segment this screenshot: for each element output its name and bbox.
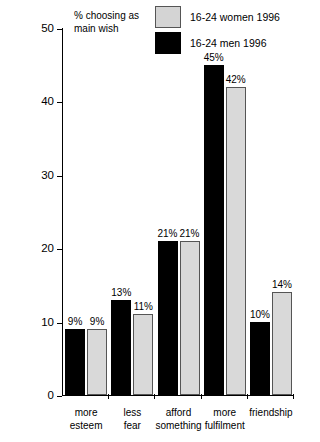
y-axis-tick-label: 10 <box>30 317 54 328</box>
legend-item-women: 16-24 women 1996 <box>155 4 294 30</box>
bar-women[interactable]: 11% <box>133 28 153 395</box>
x-axis-category-label: friendship <box>248 406 294 442</box>
y-axis-tick-label: 40 <box>30 96 54 107</box>
y-axis-tick <box>57 176 62 177</box>
bar-group: 21%21% <box>155 28 201 395</box>
bar-men[interactable]: 45% <box>204 28 224 395</box>
bar-men[interactable]: 21% <box>158 28 178 395</box>
bar-women[interactable]: 9% <box>87 28 107 395</box>
bar-rect[interactable] <box>250 322 270 395</box>
y-axis-tick-label: 30 <box>30 170 54 181</box>
bar-value-label: 9% <box>90 317 104 327</box>
legend-label-women: 16-24 women 1996 <box>190 12 280 23</box>
chart-plot-area: 01020304050 9%9%13%11%21%21%45%42%10%14% <box>62 28 288 396</box>
bar-men[interactable]: 13% <box>111 28 131 395</box>
bar-women[interactable]: 42% <box>226 28 246 395</box>
bar-women[interactable]: 14% <box>272 28 292 395</box>
bar-men[interactable]: 9% <box>65 28 85 395</box>
y-axis-tick-label: 50 <box>30 23 54 34</box>
bar-rect[interactable] <box>204 65 224 395</box>
x-axis-category-label: less fear <box>109 406 155 442</box>
y-axis-tick <box>57 29 62 30</box>
bar-group: 9%9% <box>63 28 109 395</box>
x-axis-tick <box>293 394 294 399</box>
bar-rect[interactable] <box>272 292 292 395</box>
bar-value-label: 9% <box>68 317 82 327</box>
bar-value-label: 14% <box>272 280 292 290</box>
x-axis-line <box>62 395 294 396</box>
y-axis-tick <box>57 323 62 324</box>
bar-value-label: 45% <box>204 53 224 63</box>
bar-group: 45%42% <box>202 28 248 395</box>
bar-value-label: 13% <box>111 288 131 298</box>
y-axis-tick <box>57 249 62 250</box>
bar-women[interactable]: 21% <box>180 28 200 395</box>
y-axis-tick <box>57 102 62 103</box>
x-axis-category-label: afford something <box>155 406 201 442</box>
x-axis-category-label: more fulfilment <box>202 406 248 442</box>
bar-rect[interactable] <box>133 314 153 395</box>
bar-rect[interactable] <box>180 241 200 395</box>
bar-value-label: 10% <box>250 310 270 320</box>
y-axis-tick <box>57 396 62 397</box>
bar-value-label: 42% <box>226 75 246 85</box>
bar-rect[interactable] <box>111 300 131 395</box>
bar-rect[interactable] <box>65 329 85 395</box>
y-axis-tick-label: 0 <box>30 390 54 401</box>
legend-swatch-women-icon <box>155 6 181 28</box>
bar-value-label: 11% <box>134 302 153 312</box>
bar-group: 13%11% <box>109 28 155 395</box>
bar-rect[interactable] <box>226 87 246 395</box>
bar-rect[interactable] <box>158 241 178 395</box>
y-axis-tick-label: 20 <box>30 243 54 254</box>
bar-value-label: 21% <box>157 229 177 239</box>
x-axis-category-labels: more esteemless fearafford somethingmore… <box>63 406 294 442</box>
bar-men[interactable]: 10% <box>250 28 270 395</box>
bar-value-label: 21% <box>179 229 199 239</box>
bar-groups: 9%9%13%11%21%21%45%42%10%14% <box>63 28 294 395</box>
x-axis-category-label: more esteem <box>63 406 109 442</box>
bar-rect[interactable] <box>87 329 107 395</box>
bar-group: 10%14% <box>248 28 294 395</box>
